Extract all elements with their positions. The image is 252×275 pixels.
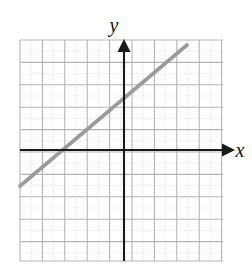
coordinate-plane-svg: y x xyxy=(0,0,252,275)
x-axis-label: x xyxy=(235,139,245,161)
coordinate-graph-figure: y x xyxy=(0,0,252,275)
y-axis-label: y xyxy=(108,14,119,37)
figure-background xyxy=(0,0,252,275)
